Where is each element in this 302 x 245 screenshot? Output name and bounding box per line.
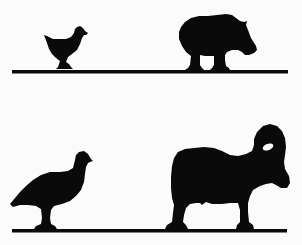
bottom-rail xyxy=(10,124,290,233)
pig-silhouette xyxy=(179,14,257,70)
turkey-silhouette xyxy=(10,151,93,229)
top-rail-bar xyxy=(12,70,288,74)
chicken-silhouette xyxy=(44,26,88,69)
top-rail xyxy=(12,14,288,74)
bottom-rail-bar xyxy=(12,229,287,233)
ram-silhouette xyxy=(165,124,290,229)
silhouette-targets-scene xyxy=(0,0,302,245)
